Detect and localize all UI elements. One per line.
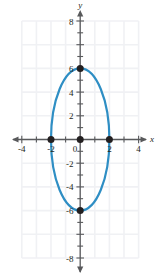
x-axis-left-arrow: [12, 136, 19, 142]
y-tick-label-minus6: -6: [66, 206, 74, 216]
point-top-vertex: [77, 65, 84, 72]
y-tick-label-minus2: -2: [66, 159, 74, 169]
x-tick-label-4: 4: [136, 144, 141, 154]
y-tick-label-minus8: -8: [66, 254, 74, 264]
x-axis-label: x: [149, 134, 154, 144]
point-origin: [77, 136, 84, 143]
y-tick-label-8: 8: [69, 17, 74, 27]
x-tick-label-minus4: -4: [18, 144, 26, 154]
point-right-vertex: [106, 136, 113, 143]
y-axis-top-arrow: [77, 10, 83, 17]
y-tick-label-2: 2: [69, 111, 74, 121]
x-axis-right-arrow: [141, 136, 148, 142]
point-bottom-vertex: [77, 207, 84, 214]
graph-figure: -4 -2 0 2 4 8 6 4 2 -2 -4 -6 -8 x y: [0, 0, 161, 279]
y-tick-label-6: 6: [69, 64, 74, 74]
x-tick-label-minus2: -2: [47, 144, 55, 154]
y-tick-label-minus4: -4: [66, 182, 74, 192]
x-tick-label-zero: 0: [73, 144, 78, 154]
x-tick-label-2: 2: [107, 144, 112, 154]
coordinate-plane: -4 -2 0 2 4 8 6 4 2 -2 -4 -6 -8 x y: [0, 0, 161, 279]
point-left-vertex: [48, 136, 55, 143]
y-axis-label: y: [77, 0, 82, 10]
y-axis-bottom-arrow: [77, 267, 83, 274]
y-tick-label-4: 4: [69, 88, 74, 98]
